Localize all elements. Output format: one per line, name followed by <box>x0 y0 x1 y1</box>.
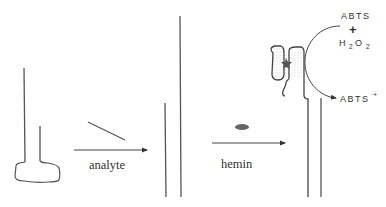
h2o2-sub-2: 2 <box>366 43 370 50</box>
probe-loop <box>15 161 60 182</box>
hemin-label: hemin <box>221 157 253 171</box>
duplex-long-strand <box>180 16 181 197</box>
h2o2-h: H <box>339 38 347 48</box>
h2o2-sub-1: 2 <box>349 43 353 50</box>
duplex-short-strand <box>165 103 166 197</box>
h2o2-o: O <box>355 38 364 48</box>
hairpin-probe <box>15 68 60 182</box>
probe-long-strand <box>24 68 25 162</box>
abts-product-text: ABTS <box>340 94 370 104</box>
catalysis-arc-icon <box>305 26 340 98</box>
abts-radical-superscript: ·+ <box>371 91 377 98</box>
duplex-structure <box>165 16 181 197</box>
plus-sign: + <box>349 22 357 37</box>
abts-substrate-label: ABTS <box>341 11 371 21</box>
abts-radical-product-label: ABTS ·+ <box>340 91 377 104</box>
hemin-icon <box>235 124 249 130</box>
analyte-strand-icon <box>88 122 125 140</box>
reaction-scheme-diagram: analyte hemin ABTS + H 2 O 2 ABTS ·+ <box>0 0 386 207</box>
g-quadruplex-dnazyme <box>271 46 321 197</box>
h2o2-label: H 2 O 2 <box>339 38 370 50</box>
analyte-label: analyte <box>89 158 126 172</box>
